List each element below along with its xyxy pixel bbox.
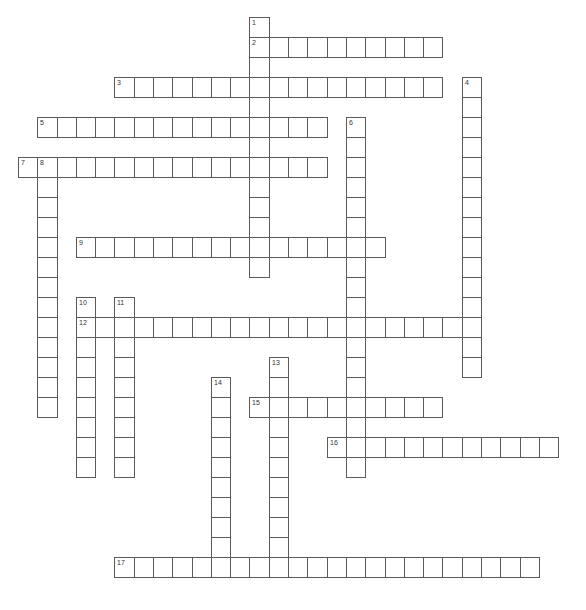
crossword-cell[interactable] xyxy=(462,177,482,198)
crossword-cell[interactable] xyxy=(230,237,250,258)
crossword-cell[interactable] xyxy=(134,117,154,138)
crossword-cell[interactable] xyxy=(114,117,135,138)
crossword-cell[interactable] xyxy=(404,77,424,98)
crossword-cell[interactable] xyxy=(114,457,135,478)
crossword-cell[interactable]: 11 xyxy=(114,297,135,318)
crossword-cell[interactable] xyxy=(249,197,270,218)
crossword-cell[interactable] xyxy=(192,557,212,578)
crossword-cell[interactable] xyxy=(307,557,328,578)
crossword-cell[interactable] xyxy=(385,317,405,338)
crossword-cell[interactable] xyxy=(346,77,366,98)
crossword-cell[interactable] xyxy=(346,337,366,358)
crossword-cell[interactable] xyxy=(230,317,250,338)
crossword-cell[interactable] xyxy=(172,157,193,178)
crossword-cell[interactable] xyxy=(269,377,289,398)
crossword-cell[interactable] xyxy=(114,377,135,398)
crossword-cell[interactable] xyxy=(37,357,58,378)
crossword-cell[interactable] xyxy=(153,157,173,178)
crossword-cell[interactable]: 3 xyxy=(114,77,135,98)
crossword-cell[interactable] xyxy=(365,77,386,98)
crossword-cell[interactable] xyxy=(114,317,135,338)
crossword-cell[interactable] xyxy=(211,537,231,558)
crossword-cell[interactable] xyxy=(288,77,308,98)
crossword-cell[interactable] xyxy=(423,437,443,458)
crossword-cell[interactable] xyxy=(307,397,328,418)
crossword-cell[interactable] xyxy=(385,437,405,458)
crossword-cell[interactable] xyxy=(365,237,386,258)
crossword-cell[interactable] xyxy=(249,257,270,278)
crossword-cell[interactable] xyxy=(462,437,482,458)
crossword-cell[interactable] xyxy=(95,317,115,338)
crossword-cell[interactable] xyxy=(57,117,77,138)
crossword-cell[interactable] xyxy=(76,457,96,478)
crossword-cell[interactable] xyxy=(346,417,366,438)
crossword-cell[interactable] xyxy=(134,557,154,578)
crossword-cell[interactable] xyxy=(462,357,482,378)
crossword-cell[interactable]: 4 xyxy=(462,77,482,98)
crossword-cell[interactable] xyxy=(76,397,96,418)
crossword-cell[interactable] xyxy=(385,557,405,578)
crossword-cell[interactable] xyxy=(307,237,328,258)
crossword-cell[interactable] xyxy=(462,337,482,358)
crossword-cell[interactable] xyxy=(346,277,366,298)
crossword-cell[interactable] xyxy=(462,197,482,218)
crossword-cell[interactable] xyxy=(500,437,521,458)
crossword-cell[interactable] xyxy=(346,437,366,458)
crossword-cell[interactable]: 12 xyxy=(76,317,96,338)
crossword-cell[interactable] xyxy=(346,217,366,238)
crossword-cell[interactable] xyxy=(288,397,308,418)
crossword-cell[interactable] xyxy=(346,257,366,278)
crossword-cell[interactable] xyxy=(462,217,482,238)
crossword-cell[interactable] xyxy=(37,297,58,318)
crossword-cell[interactable] xyxy=(327,557,347,578)
crossword-cell[interactable] xyxy=(462,557,482,578)
crossword-cell[interactable] xyxy=(269,457,289,478)
crossword-cell[interactable] xyxy=(307,77,328,98)
crossword-cell[interactable] xyxy=(462,277,482,298)
crossword-cell[interactable] xyxy=(327,77,347,98)
crossword-cell[interactable]: 17 xyxy=(114,557,135,578)
crossword-cell[interactable] xyxy=(37,337,58,358)
crossword-cell[interactable] xyxy=(249,557,270,578)
crossword-cell[interactable] xyxy=(404,397,424,418)
crossword-cell[interactable] xyxy=(76,157,96,178)
crossword-cell[interactable] xyxy=(327,237,347,258)
crossword-cell[interactable] xyxy=(269,557,289,578)
crossword-cell[interactable] xyxy=(423,557,443,578)
crossword-cell[interactable] xyxy=(404,37,424,58)
crossword-cell[interactable] xyxy=(192,237,212,258)
crossword-cell[interactable] xyxy=(462,237,482,258)
crossword-cell[interactable] xyxy=(269,117,289,138)
crossword-cell[interactable] xyxy=(346,357,366,378)
crossword-cell[interactable] xyxy=(37,317,58,338)
crossword-cell[interactable] xyxy=(500,557,521,578)
crossword-cell[interactable] xyxy=(462,317,482,338)
crossword-cell[interactable] xyxy=(95,117,115,138)
crossword-cell[interactable] xyxy=(539,437,559,458)
crossword-cell[interactable] xyxy=(134,77,154,98)
crossword-cell[interactable] xyxy=(192,157,212,178)
crossword-cell[interactable] xyxy=(153,77,173,98)
crossword-cell[interactable] xyxy=(211,417,231,438)
crossword-cell[interactable]: 6 xyxy=(346,117,366,138)
crossword-cell[interactable]: 10 xyxy=(76,297,96,318)
crossword-cell[interactable] xyxy=(520,557,540,578)
crossword-cell[interactable] xyxy=(153,317,173,338)
crossword-cell[interactable] xyxy=(249,157,270,178)
crossword-cell[interactable] xyxy=(211,317,231,338)
crossword-cell[interactable] xyxy=(365,37,386,58)
crossword-cell[interactable] xyxy=(385,397,405,418)
crossword-cell[interactable] xyxy=(134,157,154,178)
crossword-cell[interactable] xyxy=(346,177,366,198)
crossword-cell[interactable] xyxy=(385,37,405,58)
crossword-cell[interactable] xyxy=(462,117,482,138)
crossword-cell[interactable]: 7 xyxy=(18,157,38,178)
crossword-cell[interactable] xyxy=(346,397,366,418)
crossword-cell[interactable] xyxy=(114,417,135,438)
crossword-cell[interactable] xyxy=(269,537,289,558)
crossword-cell[interactable] xyxy=(404,557,424,578)
crossword-cell[interactable] xyxy=(211,157,231,178)
crossword-cell[interactable] xyxy=(423,77,443,98)
crossword-cell[interactable] xyxy=(211,517,231,538)
crossword-cell[interactable] xyxy=(192,117,212,138)
